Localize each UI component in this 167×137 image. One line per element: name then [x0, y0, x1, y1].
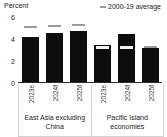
y-tick-4: 4 [11, 35, 15, 42]
group-label-east-asia: East Asia excluding China [19, 111, 91, 136]
bar-east-asia-2025f [70, 31, 87, 82]
bar-slot [22, 17, 39, 82]
average-marker-pacific-2025f [144, 46, 157, 48]
y-tick-6: 6 [11, 14, 15, 21]
bar-east-asia-2024f [46, 33, 63, 82]
y-axis-unit-label: Percent [4, 2, 28, 10]
bar-east-asia-2023e [22, 37, 39, 83]
x-tick-east-asia-0: 2023e [28, 85, 35, 103]
average-marker-pacific-2023e [96, 46, 109, 49]
group-label-pacific-island: Pacific Island economies [91, 111, 164, 136]
bar-slot [46, 17, 63, 82]
y-tick-2: 2 [11, 57, 15, 64]
bar-group-pacific-island [90, 17, 162, 82]
tick-slot: 2023e [23, 84, 40, 111]
x-tick-east-asia-2: 2025f [76, 85, 83, 101]
bar-slot [94, 17, 111, 82]
bar-slot [142, 17, 159, 82]
average-marker-icon [100, 6, 106, 8]
bar-chart: Percent 2000-19 average 6 4 2 0 [0, 0, 167, 137]
group-labels: East Asia excluding China Pacific Island… [18, 111, 164, 137]
x-tick-pacific-0: 2023e [100, 85, 107, 103]
x-tick-group-pacific-island: 2023e 2024f 2025f [91, 84, 163, 111]
chart-legend: 2000-19 average [100, 3, 161, 11]
tick-slot: 2024f [47, 84, 64, 111]
average-marker-east-asia-2024f [48, 25, 61, 27]
tick-slot: 2024f [119, 84, 136, 111]
plot-area: 6 4 2 0 [18, 17, 162, 83]
bar-group-east-asia [18, 17, 90, 82]
bar-pacific-2025f [142, 48, 159, 82]
tick-slot: 2023e [95, 84, 112, 111]
legend-label-average: 2000-19 average [108, 3, 161, 11]
tick-slot: 2025f [71, 84, 88, 111]
x-axis-line [18, 82, 162, 83]
bar-slot [70, 17, 87, 82]
average-marker-east-asia-2023e [24, 26, 37, 28]
y-tick-0: 0 [11, 80, 15, 87]
average-marker-east-asia-2025f [72, 24, 85, 26]
x-tick-pacific-1: 2024f [124, 85, 131, 101]
x-tick-east-asia-1: 2024f [52, 85, 59, 101]
x-tick-pacific-2: 2025f [148, 85, 155, 101]
average-marker-pacific-2024f [120, 46, 133, 49]
x-tick-group-east-asia: 2023e 2024f 2025f [19, 84, 91, 111]
x-tick-labels: 2023e 2024f 2025f 2023e 2024f 2025f [18, 84, 164, 111]
bar-slot [118, 17, 135, 82]
bars-container [18, 17, 162, 82]
tick-slot: 2025f [143, 84, 160, 111]
bar-pacific-2023e [94, 45, 111, 82]
bar-pacific-2024f [118, 34, 135, 82]
